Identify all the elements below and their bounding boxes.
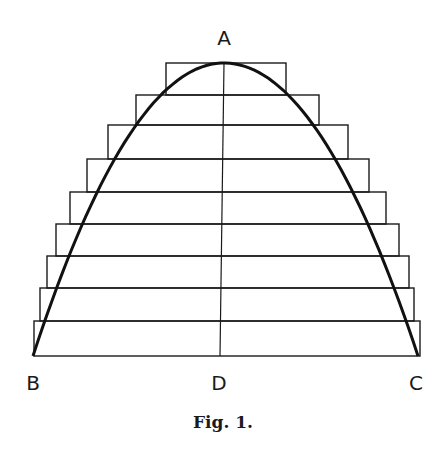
step-rectangle-3 bbox=[108, 125, 348, 159]
step-rectangle-9 bbox=[34, 321, 420, 356]
step-rectangle-6 bbox=[56, 224, 399, 256]
parabolic-curve bbox=[33, 63, 418, 356]
label-A: A bbox=[217, 26, 231, 50]
vertical-axis-AD bbox=[220, 63, 224, 356]
step-rectangle-7 bbox=[47, 256, 409, 288]
step-rectangle-5 bbox=[70, 192, 386, 224]
step-rectangle-8 bbox=[40, 288, 414, 321]
label-D: D bbox=[211, 371, 226, 395]
figure-caption: Fig. 1. bbox=[193, 412, 253, 432]
label-C: C bbox=[409, 371, 423, 395]
label-B: B bbox=[26, 371, 40, 395]
step-rectangle-4 bbox=[87, 159, 369, 192]
arch-diagram: A B D C Fig. 1. bbox=[0, 0, 445, 453]
